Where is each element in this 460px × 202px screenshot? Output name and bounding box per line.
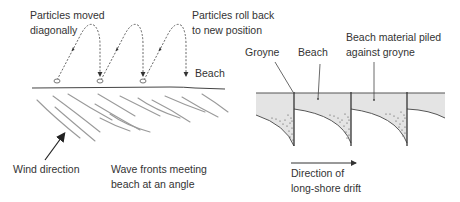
wave-fronts [37,94,228,141]
label-beach-right: Beach [298,45,328,59]
label-drift-1: Direction of [291,166,344,180]
particles [54,79,146,83]
wind-direction-arrow [45,134,64,160]
label-wind-direction: Wind direction [13,162,80,176]
label-particles-roll-2: to new position [192,23,262,37]
label-wave-fronts-1: Wave fronts meeting [111,162,207,176]
label-material-2: against groyne [346,45,415,59]
beach-line [32,87,225,89]
label-particles-roll-1: Particles roll back [192,8,274,22]
particle-icon [54,79,60,83]
particle-icon [140,79,146,83]
label-material-1: Beach material piled [346,30,441,44]
mid-arrows [72,47,162,51]
label-groyne: Groyne [245,45,279,59]
label-drift-2: long-shore drift [291,181,361,195]
label-wave-fronts-2: beach at an angle [111,177,195,191]
particle-icon [97,79,103,83]
label-particles-moved-1: Particles moved [30,8,105,22]
label-beach-left: Beach [195,66,225,80]
label-particles-moved-2: diagonally [30,23,77,37]
